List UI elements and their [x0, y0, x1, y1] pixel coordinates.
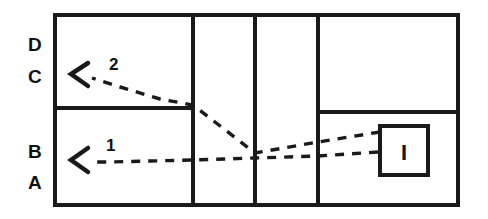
- inner-box-label: I: [401, 140, 407, 165]
- schematic-diagram: I D C B A 2 1: [0, 0, 488, 219]
- flow-arrow-2-label: 2: [109, 55, 118, 74]
- diagram-container: I D C B A 2 1: [0, 0, 488, 219]
- row-label-c: C: [28, 66, 42, 87]
- flow-arrow-1-label: 1: [106, 136, 115, 155]
- row-label-b: B: [28, 141, 42, 162]
- row-label-d: D: [28, 34, 42, 55]
- row-label-a: A: [28, 172, 42, 193]
